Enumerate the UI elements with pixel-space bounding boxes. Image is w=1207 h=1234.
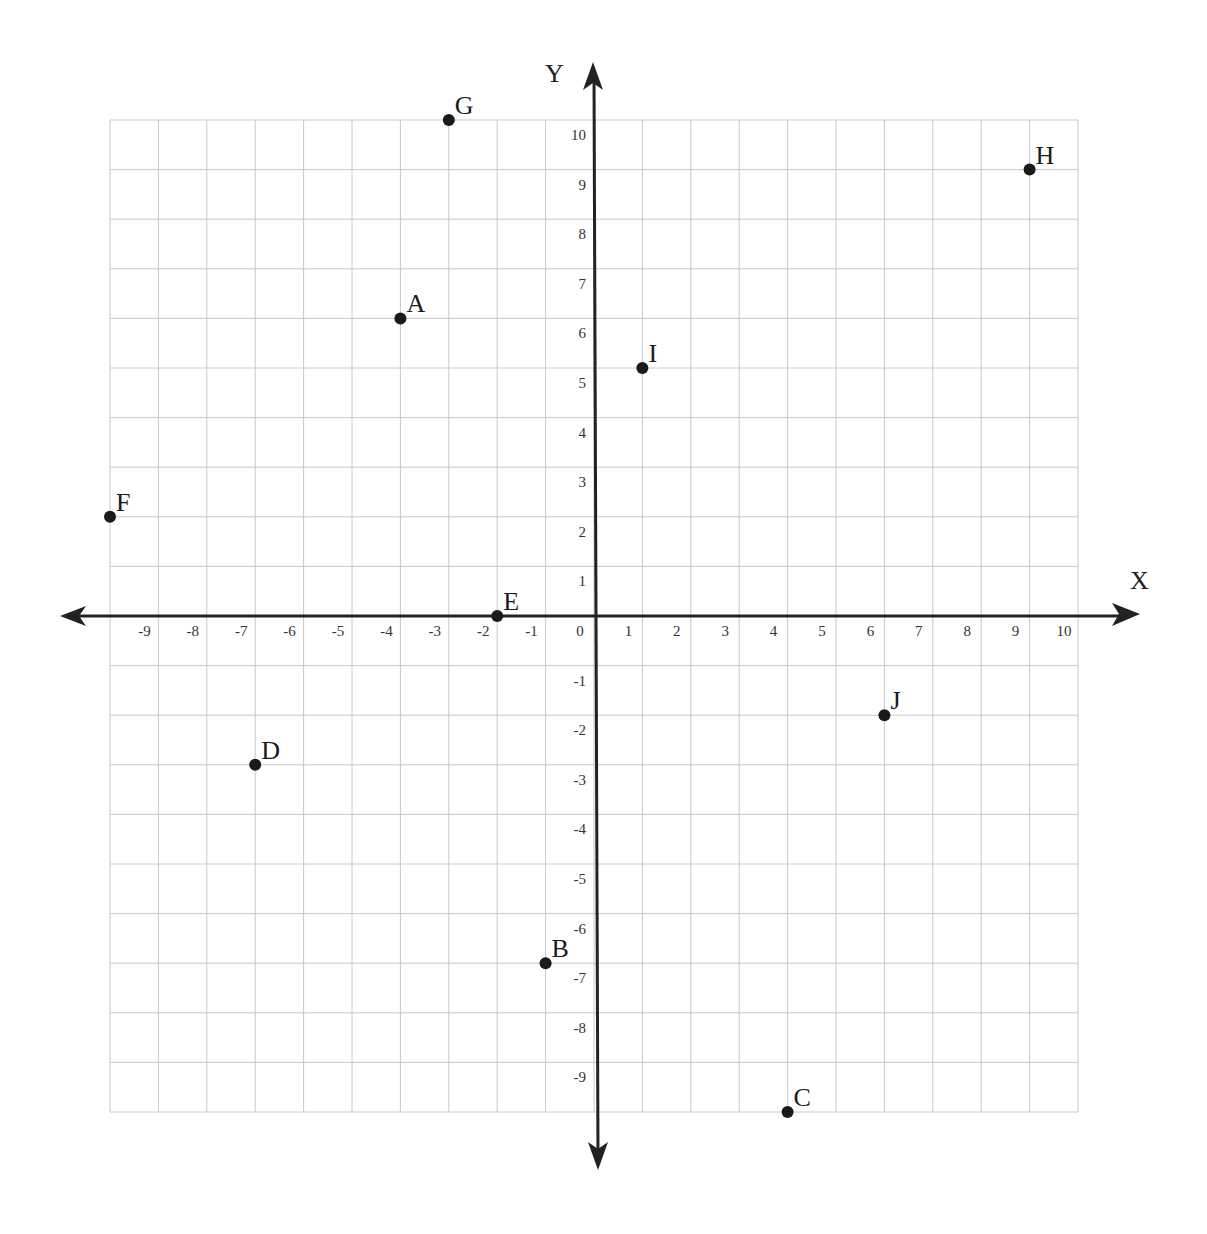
x-tick-label: -6 xyxy=(283,623,296,639)
y-tick-label: 7 xyxy=(579,276,587,292)
y-tick-label: 10 xyxy=(571,127,586,143)
x-tick-label: -8 xyxy=(187,623,200,639)
point-i: I xyxy=(636,339,657,374)
point-marker-icon xyxy=(394,312,406,324)
x-tick-label: -2 xyxy=(477,623,490,639)
y-tick-label: -9 xyxy=(574,1069,587,1085)
x-tick-label: 5 xyxy=(818,623,826,639)
point-a: A xyxy=(394,289,425,324)
point-d: D xyxy=(249,736,280,771)
y-tick-label: 4 xyxy=(579,425,587,441)
x-tick-label: -3 xyxy=(429,623,442,639)
y-tick-label: 9 xyxy=(579,177,587,193)
point-marker-icon xyxy=(104,511,116,523)
point-label: H xyxy=(1036,141,1055,170)
point-label: C xyxy=(794,1083,811,1112)
y-tick-label: -6 xyxy=(574,921,587,937)
x-tick-label: -1 xyxy=(525,623,538,639)
x-tick-label: 0 xyxy=(576,623,584,639)
point-b: B xyxy=(540,934,569,969)
x-tick-label: 6 xyxy=(867,623,875,639)
axes: X Y xyxy=(60,59,1149,1170)
x-tick-labels: -9-8-7-6-5-4-3-2-1012345678910 xyxy=(138,623,1071,639)
point-marker-icon xyxy=(249,759,261,771)
point-label: A xyxy=(406,289,425,318)
x-tick-label: -9 xyxy=(138,623,151,639)
x-tick-label: 9 xyxy=(1012,623,1020,639)
y-tick-label: -8 xyxy=(574,1020,587,1036)
point-label: D xyxy=(261,736,280,765)
point-marker-icon xyxy=(443,114,455,126)
y-axis-line xyxy=(594,74,598,1160)
y-tick-label: -3 xyxy=(574,772,587,788)
y-tick-label: 8 xyxy=(579,226,587,242)
y-tick-label: -1 xyxy=(574,673,587,689)
point-label: E xyxy=(503,587,519,616)
point-h: H xyxy=(1024,141,1055,176)
point-marker-icon xyxy=(491,610,503,622)
y-tick-label: -4 xyxy=(574,821,587,837)
y-tick-label: -7 xyxy=(574,970,587,986)
point-label: B xyxy=(552,934,569,963)
point-label: F xyxy=(116,488,130,517)
x-tick-label: 4 xyxy=(770,623,778,639)
x-tick-label: 10 xyxy=(1057,623,1072,639)
point-label: J xyxy=(890,686,900,715)
y-axis-label: Y xyxy=(545,59,564,88)
y-tick-label: 5 xyxy=(579,375,587,391)
x-tick-label: -4 xyxy=(380,623,393,639)
point-label: I xyxy=(648,339,657,368)
y-tick-labels: 10987654321-1-2-3-4-5-6-7-8-9 xyxy=(571,127,587,1085)
y-tick-label: -2 xyxy=(574,722,587,738)
point-f: F xyxy=(104,488,130,523)
y-tick-label: 1 xyxy=(579,573,587,589)
coordinate-plane: X Y -9-8-7-6-5-4-3-2-1012345678910 10987… xyxy=(0,0,1207,1234)
x-tick-label: -7 xyxy=(235,623,248,639)
y-tick-label: 3 xyxy=(579,474,587,490)
x-axis-label: X xyxy=(1130,566,1149,595)
x-tick-label: 8 xyxy=(963,623,971,639)
x-tick-label: 3 xyxy=(721,623,729,639)
data-points: ABCDEFGHIJ xyxy=(104,91,1055,1118)
y-tick-label: 6 xyxy=(579,325,587,341)
point-c: C xyxy=(782,1083,811,1118)
y-tick-label: 2 xyxy=(579,524,587,540)
point-label: G xyxy=(455,91,474,120)
point-marker-icon xyxy=(1024,164,1036,176)
point-marker-icon xyxy=(782,1106,794,1118)
y-tick-label: -5 xyxy=(574,871,587,887)
x-tick-label: 7 xyxy=(915,623,923,639)
point-marker-icon xyxy=(540,957,552,969)
point-marker-icon xyxy=(636,362,648,374)
point-g: G xyxy=(443,91,474,126)
x-tick-label: 2 xyxy=(673,623,681,639)
point-marker-icon xyxy=(878,709,890,721)
point-j: J xyxy=(878,686,900,721)
x-tick-label: -5 xyxy=(332,623,345,639)
x-tick-label: 1 xyxy=(625,623,633,639)
